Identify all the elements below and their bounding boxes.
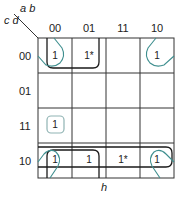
col-header-10: 10	[140, 22, 174, 34]
cell-10-01: 1	[72, 154, 106, 165]
row-header-10: 10	[14, 155, 36, 167]
cell-00-00: 1	[38, 50, 72, 61]
cell-00-01: 1*	[72, 50, 106, 61]
col-header-01: 01	[72, 22, 106, 34]
col-header-00: 00	[38, 22, 72, 34]
col-header-11: 11	[106, 22, 140, 34]
col-variable-label: a b	[20, 2, 35, 14]
footer-label: h	[98, 181, 110, 193]
cell-00-10: 1	[140, 50, 174, 61]
row-header-11: 11	[14, 120, 36, 132]
row-variable-label: c d	[4, 14, 19, 26]
cell-10-00: 1	[38, 154, 72, 165]
cell-11-00: 1	[38, 119, 72, 130]
cell-10-10: 1	[140, 154, 174, 165]
row-header-00: 00	[14, 50, 36, 62]
row-header-01: 01	[14, 85, 36, 97]
cell-10-11: 1*	[106, 154, 140, 165]
